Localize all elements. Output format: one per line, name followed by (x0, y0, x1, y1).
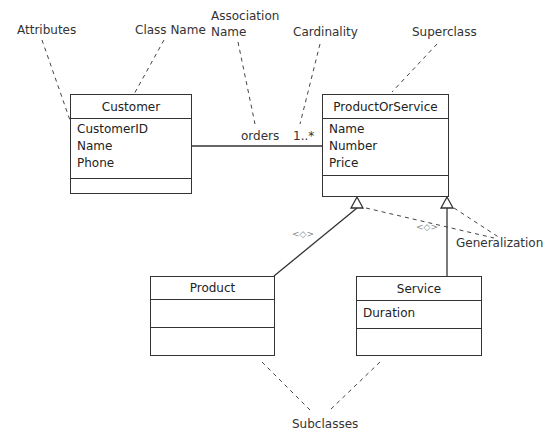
association-name-leader (238, 42, 255, 124)
attributes-compartment (151, 300, 274, 328)
annotation-attributes: Attributes (17, 23, 76, 37)
attribute: CustomerID (77, 121, 191, 138)
annotation-class-name: Class Name (135, 23, 206, 37)
generalization-triangle-icon (351, 197, 363, 208)
class-name: Customer (71, 95, 191, 119)
annotation-subclasses: Subclasses (292, 417, 358, 431)
class-name: Service (357, 277, 481, 301)
annotation-generalization: Generalization (456, 236, 543, 250)
class-name-leader (133, 40, 164, 96)
attribute: Name (329, 121, 448, 138)
annotation-superclass: Superclass (412, 25, 477, 39)
class-name: Product (151, 277, 274, 300)
generalization-line-product (274, 208, 357, 276)
attribute: Duration (363, 305, 481, 322)
class-name: ProductOrService (323, 95, 448, 119)
generalization-leader-2 (454, 208, 500, 238)
annotation-association-name-line2: Name (211, 25, 246, 39)
attributes-compartment: Duration (357, 301, 481, 329)
association-cardinality: 1..* (293, 129, 314, 143)
class-product[interactable]: Product (150, 276, 275, 356)
attributes-compartment: Name Number Price (323, 119, 448, 176)
association-name: orders (241, 129, 279, 143)
attribute: Price (329, 155, 448, 172)
superclass-leader (392, 44, 437, 92)
cardinality-leader (300, 44, 320, 124)
attribute: Phone (77, 155, 191, 172)
subclasses-leader-1 (262, 362, 310, 410)
class-service[interactable]: Service Duration (356, 276, 482, 356)
attribute: Number (329, 138, 448, 155)
subclasses-leader-2 (330, 362, 380, 410)
attributes-compartment: CustomerID Name Phone (71, 119, 191, 179)
class-customer[interactable]: Customer CustomerID Name Phone (70, 94, 192, 194)
stereotype-label: <◇> (292, 229, 314, 239)
attribute: Name (77, 138, 191, 155)
annotation-cardinality: Cardinality (293, 25, 358, 39)
stereotype-label: <◇> (416, 222, 438, 232)
annotation-association-name-line1: Association (211, 9, 279, 23)
attributes-leader (42, 40, 72, 126)
class-product-or-service[interactable]: ProductOrService Name Number Price (322, 94, 449, 197)
generalization-triangle-icon (441, 197, 453, 208)
diagram-lines (0, 0, 547, 440)
